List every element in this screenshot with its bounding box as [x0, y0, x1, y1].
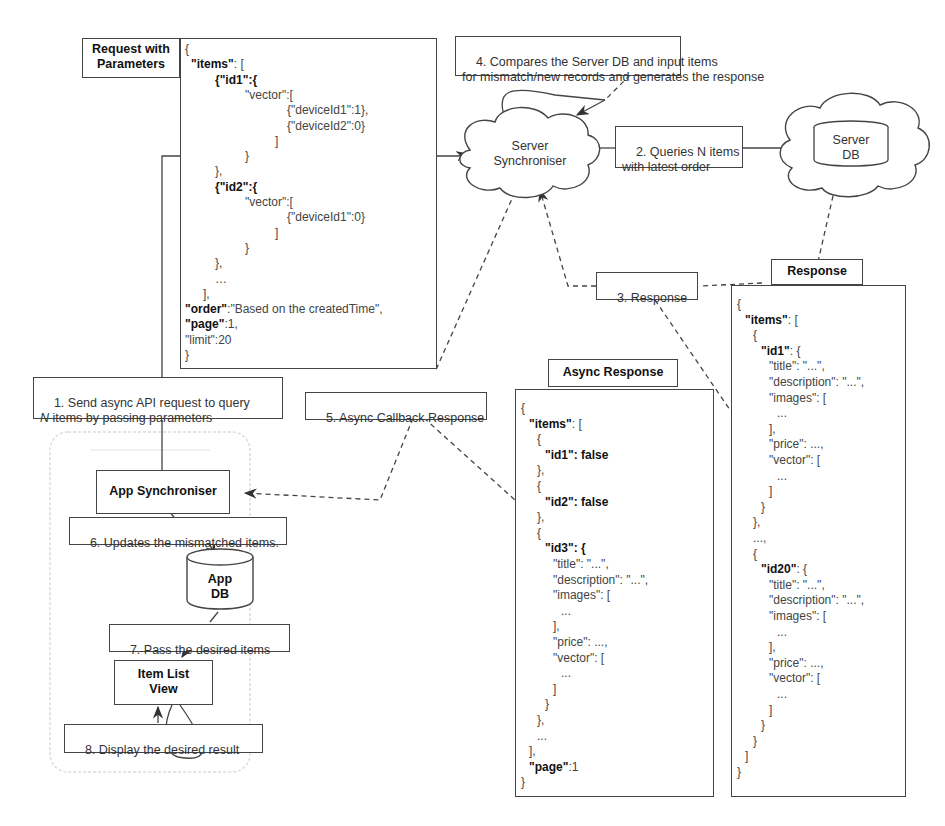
code-line: "price": ...,: [553, 635, 608, 650]
step-7-label: 7. Pass the desired items: [109, 624, 290, 652]
code-line: {"id1":{: [215, 73, 257, 88]
code-line: "price": ...,: [769, 437, 824, 452]
app-synchroniser-node: App Synchroniser: [96, 470, 230, 514]
step-2-label: 2. Queries N items with latest order: [615, 126, 743, 168]
code-line: {: [753, 328, 757, 343]
code-line: "description": "...",: [553, 573, 648, 588]
code-line: ...,: [753, 531, 766, 546]
code-line: ...: [537, 729, 547, 744]
step-1-label: 1. Send async API request to query N ite…: [33, 377, 283, 419]
code-line: },: [537, 510, 544, 525]
code-line: ],: [769, 422, 776, 437]
code-line: "page":1: [529, 760, 578, 775]
code-line: {"id2":{: [215, 180, 257, 195]
code-line: ...: [561, 604, 571, 619]
code-line: "vector":[: [245, 88, 293, 103]
step-8-label: 8. Display the desired result: [64, 724, 263, 753]
async-response-title-box: Async Response: [548, 359, 678, 387]
code-line: {: [537, 479, 541, 494]
code-line: "id1": false: [545, 448, 608, 463]
response-json-box: {"items": [{"id1": {"title": "...","desc…: [731, 285, 906, 797]
code-line: }: [185, 348, 189, 363]
app-db-label: App DB: [187, 572, 253, 602]
code-line: ...: [777, 469, 787, 484]
code-line: ]: [769, 484, 772, 499]
code-line: }: [245, 149, 249, 164]
code-line: },: [215, 256, 222, 271]
code-line: },: [537, 463, 544, 478]
server-synchroniser-label: Server Synchroniser: [480, 139, 580, 169]
code-line: "vector": [: [769, 671, 820, 686]
code-line: },: [753, 515, 760, 530]
step-3-label: 3. Response: [596, 272, 698, 300]
response-title-box: Response: [771, 259, 863, 285]
code-line: ...: [561, 666, 571, 681]
code-line: ...: [777, 406, 787, 421]
code-line: ...: [777, 625, 787, 640]
item-list-view-node: Item List View: [114, 660, 213, 705]
code-line: }: [761, 718, 765, 733]
code-line: ]: [553, 682, 556, 697]
code-line: "vector": [: [769, 453, 820, 468]
code-line: "title": "...",: [769, 578, 825, 593]
request-title: Request with Parameters: [83, 42, 179, 72]
item-list-view-label: Item List View: [115, 667, 212, 697]
code-line: "limit":20: [185, 333, 232, 348]
code-line: …: [215, 272, 227, 287]
code-line: "images": [: [769, 391, 826, 406]
code-line: "vector": [: [553, 651, 604, 666]
step-4-label: 4. Compares the Server DB and input item…: [455, 36, 681, 76]
response-title: Response: [772, 264, 862, 279]
code-line: "title": "...",: [553, 557, 609, 572]
code-line: ]: [275, 134, 278, 149]
code-line: ],: [553, 619, 560, 634]
code-line: ...: [777, 687, 787, 702]
code-line: "items": [: [191, 57, 244, 72]
code-line: {: [185, 42, 189, 57]
code-line: "description": "...",: [769, 593, 864, 608]
code-line: ]: [275, 226, 278, 241]
code-line: "order":"Based on the createdTime",: [185, 302, 383, 317]
app-synchroniser-label: App Synchroniser: [97, 484, 229, 499]
code-line: "page":1,: [185, 317, 238, 332]
code-line: "price": ...,: [769, 656, 824, 671]
code-line: },: [537, 713, 544, 728]
code-line: ]: [745, 749, 748, 764]
code-line: }: [753, 734, 757, 749]
async-response-json-box: {"items": [{"id1": false},{"id2": false}…: [515, 389, 714, 797]
request-json-box: {"items": [{"id1":{"vector":[{"deviceId1…: [180, 38, 437, 369]
code-line: {: [737, 297, 741, 312]
code-line: ]: [769, 703, 772, 718]
code-line: "images": [: [769, 609, 826, 624]
code-line: ],: [769, 640, 776, 655]
code-line: }: [521, 775, 525, 790]
code-line: {"deviceId2":0}: [287, 119, 365, 134]
code-line: "id1": {: [761, 344, 800, 359]
code-line: "title": "...",: [769, 359, 825, 374]
server-db-label: Server DB: [814, 133, 888, 163]
code-line: }: [545, 697, 549, 712]
code-line: {: [537, 432, 541, 447]
architecture-diagram: Request with Parameters {"items": [{"id1…: [0, 0, 945, 826]
code-line: {: [753, 547, 757, 562]
code-line: "images": [: [553, 588, 610, 603]
code-line: "vector":[: [245, 195, 293, 210]
code-line: }: [761, 500, 765, 515]
code-line: {"deviceId1":0}: [287, 210, 365, 225]
code-line: "items": [: [745, 313, 798, 328]
code-line: {: [521, 401, 525, 416]
code-line: "id3": {: [545, 541, 586, 556]
step-5-label: 5. Async Callback Response: [305, 392, 487, 420]
code-line: },: [215, 164, 222, 179]
code-line: }: [737, 765, 741, 780]
code-line: ],: [529, 744, 536, 759]
request-title-box: Request with Parameters: [82, 38, 180, 78]
code-line: }: [245, 241, 249, 256]
code-line: "description": "...",: [769, 375, 864, 390]
code-line: "id2": false: [545, 495, 608, 510]
code-line: "id20": {: [761, 562, 807, 577]
async-response-title: Async Response: [549, 365, 677, 380]
code-line: {: [537, 526, 541, 541]
step-6-label: 6. Updates the mismatched items.: [69, 517, 287, 545]
code-line: ],: [203, 287, 210, 302]
